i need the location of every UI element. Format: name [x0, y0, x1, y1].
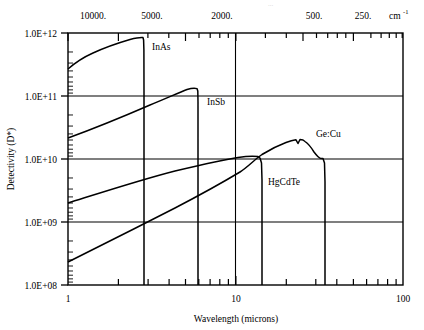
top-tick-label-5000: 5000.	[141, 11, 162, 21]
top-axis-unit-label: cm -1	[389, 8, 408, 21]
top-tick-label-250: 250.	[355, 11, 372, 21]
x-tick-label-1: 1	[66, 294, 71, 304]
curve-label-insb: InSb	[207, 97, 225, 107]
detectivity-chart-figure: ... 10000. 5000. 2000. 500. 250. cm -1	[0, 0, 424, 330]
curve-label-gecu: Ge:Cu	[316, 129, 341, 139]
x-axis-title: Wavelength (microns)	[194, 314, 278, 325]
y-tick-label-1e11: 1.0E+11	[25, 92, 57, 102]
curve-inas	[68, 37, 144, 285]
curve-insb	[68, 88, 198, 285]
x-tick-label-100: 100	[396, 294, 411, 304]
y-axis-major-ticks	[61, 33, 68, 285]
bottom-axis-tick-labels: 1 10 100	[66, 294, 411, 304]
y-axis-tick-labels: 1.0E+12 1.0E+11 1.0E+10 1.0E+09 1.0E+08	[24, 29, 57, 291]
y-tick-label-1e08: 1.0E+08	[24, 281, 57, 291]
chart-svg: ... 10000. 5000. 2000. 500. 250. cm -1	[0, 0, 424, 330]
y-axis-title: Detectivity (D*)	[6, 128, 17, 191]
y-tick-label-1e10: 1.0E+10	[24, 155, 57, 165]
x-tick-label-10: 10	[231, 294, 241, 304]
curve-gecu	[68, 140, 325, 286]
curve-annotations: InAs InSb Ge:Cu HgCdTe	[152, 42, 341, 187]
top-tick-label-500: 500.	[306, 11, 323, 21]
top-tick-label-2000: 2000.	[211, 11, 232, 21]
y-tick-label-1e12: 1.0E+12	[24, 29, 57, 39]
top-axis-unit-exponent: -1	[403, 8, 408, 15]
top-tick-label-10000: 10000.	[80, 11, 106, 21]
curve-label-hgcdte: HgCdTe	[268, 177, 300, 187]
data-curves	[68, 37, 325, 285]
top-axis-tick-labels: 10000. 5000. 2000. 500. 250. cm -1	[80, 8, 408, 21]
y-axis-minor-ticks	[68, 52, 73, 282]
top-axis-unit-text: cm	[389, 11, 401, 21]
bottom-axis-ticks	[118, 276, 396, 285]
cut-off-title-remnant: ...	[268, 0, 274, 8]
y-tick-label-1e09: 1.0E+09	[24, 218, 57, 228]
curve-label-inas: InAs	[152, 42, 171, 52]
